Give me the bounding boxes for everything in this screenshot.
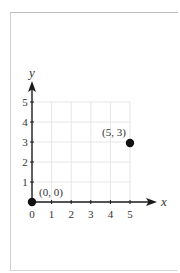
x-axis-label: x <box>160 194 167 209</box>
y-tick-label: 4 <box>22 116 28 128</box>
y-tick-label: 3 <box>22 136 28 148</box>
y-tick-labels: 1 2 3 4 5 <box>22 96 28 188</box>
x-tick-label: 2 <box>68 208 74 220</box>
x-tick-label: 1 <box>49 208 55 220</box>
y-axis-label: y <box>27 65 35 80</box>
x-tick-labels: 0 1 2 3 4 5 <box>29 208 133 220</box>
y-tick-label: 5 <box>22 96 28 108</box>
y-tick-label: 2 <box>22 156 28 168</box>
x-tick-label: 3 <box>88 208 94 220</box>
x-tick-label: 4 <box>108 208 114 220</box>
coordinate-plane: 0 1 2 3 4 5 1 2 3 4 5 x y (0, 0) (5, 3) <box>0 0 180 273</box>
point-label: (5, 3) <box>102 126 126 139</box>
point-label: (0, 0) <box>39 186 63 199</box>
x-tick-label: 5 <box>127 208 133 220</box>
data-point <box>126 139 134 147</box>
data-point-origin <box>28 198 36 206</box>
y-tick-label: 1 <box>22 176 28 188</box>
x-tick-label: 0 <box>29 208 35 220</box>
